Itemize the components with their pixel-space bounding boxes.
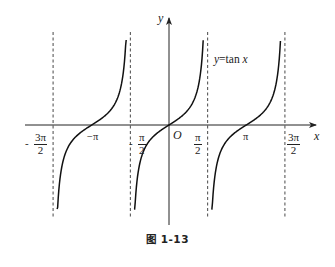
- figure-caption: 图 1-13: [0, 231, 335, 246]
- tick-label-neg-pi: −π: [87, 132, 98, 143]
- minus-sign: -: [129, 138, 133, 150]
- tick-numerator: π: [194, 132, 202, 145]
- tick-label-pi-over-2: π 2: [194, 132, 202, 156]
- tick-denominator: 2: [291, 145, 297, 157]
- x-axis-label: x: [314, 130, 319, 142]
- function-label-eq: =tan: [219, 53, 242, 65]
- tick-denominator: 2: [38, 145, 44, 157]
- tick-label-neg-pi-over-2: - π 2: [138, 132, 146, 156]
- function-label: y=tan x: [214, 54, 248, 66]
- tick-numerator: π: [138, 132, 146, 145]
- function-label-x: x: [243, 53, 248, 65]
- tick-label-neg-3pi-over-2: - 3π 2: [34, 132, 47, 156]
- tick-numerator: 3π: [34, 132, 47, 145]
- minus-sign: -: [25, 138, 29, 150]
- tick-label-pi: π: [243, 132, 248, 143]
- tan-graph: [0, 0, 335, 267]
- origin-label: O: [173, 129, 182, 141]
- y-axis-label: y: [158, 12, 163, 24]
- tick-denominator: 2: [139, 145, 145, 157]
- tick-label-3pi-over-2: 3π 2: [287, 132, 300, 156]
- tick-denominator: 2: [195, 145, 201, 157]
- tick-numerator: 3π: [287, 132, 300, 145]
